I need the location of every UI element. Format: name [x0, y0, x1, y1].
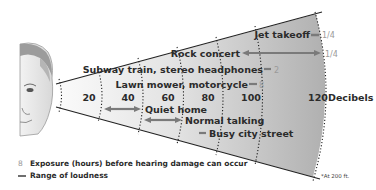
- legend-range-text: Range of loudness: [30, 171, 108, 180]
- tick-40: 40: [121, 92, 135, 103]
- tick-20: 20: [82, 92, 96, 103]
- label-jet-takeoff: Jet takeoff: [253, 29, 310, 40]
- legend-exposure: 8Exposure (hours) before hearing damage …: [18, 159, 247, 168]
- label-rock-concert: Rock concert: [171, 48, 241, 59]
- face-illustration: [20, 43, 53, 136]
- exposure-subway: 2: [274, 66, 279, 75]
- label-quiet-home: Quiet home: [145, 104, 207, 115]
- tick-100: 100: [241, 92, 261, 103]
- exposure-marker: 8: [18, 159, 30, 168]
- decibels-unit-label: Decibels: [328, 92, 374, 103]
- legend-exposure-text: Exposure (hours) before hearing damage c…: [30, 159, 247, 168]
- tick-60: 60: [161, 92, 175, 103]
- label-busy-street: Busy city street: [209, 128, 294, 139]
- tick-80: 80: [201, 92, 215, 103]
- exposure-jet: 1/4: [322, 31, 335, 40]
- exposure-rock: 1/4: [325, 50, 338, 59]
- footnote: *At 200 ft.: [321, 173, 349, 179]
- label-lawn-mower: Lawn mower, motorcycle: [116, 79, 249, 90]
- label-subway: Subway train, stereo headphones: [83, 64, 264, 75]
- legend-range: Range of loudness: [18, 171, 108, 180]
- tick-120: 120: [308, 92, 328, 103]
- range-dash-icon: [18, 175, 26, 177]
- label-normal-talking: Normal talking: [185, 115, 264, 126]
- exposure-lawn-mower: 8: [259, 81, 264, 90]
